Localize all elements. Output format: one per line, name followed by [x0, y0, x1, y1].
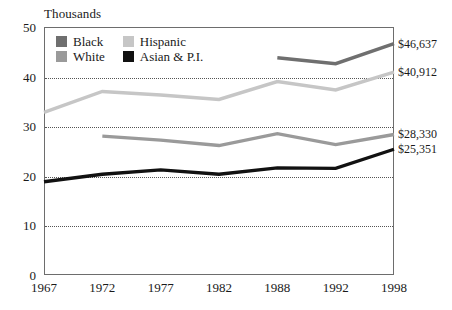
- y-axis-unit-title: Thousands: [44, 6, 101, 22]
- x-tick-label-1967: 1967: [31, 281, 57, 294]
- series-line-white: [102, 134, 394, 146]
- chart-legend: BlackHispanicWhiteAsian & P.I.: [56, 35, 203, 63]
- legend-label: White: [73, 50, 105, 63]
- y-tick-label-20: 20: [23, 169, 36, 182]
- x-axis: 1967197219771982198819921998: [0, 281, 452, 301]
- x-tick-label-1977: 1977: [148, 281, 174, 294]
- y-axis: 01020304050: [0, 0, 44, 310]
- series-end-labels: $46,637$40,912$28,330$25,351: [398, 0, 452, 310]
- legend-swatch-hispanic: [123, 36, 134, 47]
- legend-item-black[interactable]: Black: [56, 35, 105, 48]
- legend-label: Black: [73, 35, 103, 48]
- income-by-race-line-chart: Thousands 01020304050 BlackHispanicWhite…: [0, 0, 452, 310]
- legend-item-white[interactable]: White: [56, 50, 105, 63]
- legend-label: Hispanic: [140, 35, 186, 48]
- y-tick-label-30: 30: [23, 120, 36, 133]
- end-label-hispanic: $40,912: [398, 66, 437, 78]
- series-line-hispanic: [44, 72, 394, 112]
- legend-swatch-asian-pi: [123, 51, 134, 62]
- y-tick-label-40: 40: [23, 70, 36, 83]
- x-tick-label-1988: 1988: [264, 281, 290, 294]
- series-layer: [44, 27, 394, 275]
- x-tick-label-1972: 1972: [89, 281, 115, 294]
- y-tick-label-50: 50: [23, 21, 36, 34]
- series-line-asian-p-i: [44, 149, 394, 181]
- legend-swatch-white: [56, 51, 67, 62]
- x-tick-label-1992: 1992: [323, 281, 349, 294]
- y-tick-label-10: 10: [23, 219, 36, 232]
- x-tick-label-1982: 1982: [206, 281, 232, 294]
- legend-item-asian-p-i[interactable]: Asian & P.I.: [123, 50, 204, 63]
- end-label-asian-pi: $25,351: [398, 143, 437, 155]
- end-label-white: $28,330: [398, 128, 437, 140]
- legend-swatch-black: [56, 36, 67, 47]
- series-line-black: [277, 44, 394, 64]
- end-label-black: $46,637: [398, 38, 437, 50]
- legend-item-hispanic[interactable]: Hispanic: [123, 35, 204, 48]
- legend-label: Asian & P.I.: [140, 50, 204, 63]
